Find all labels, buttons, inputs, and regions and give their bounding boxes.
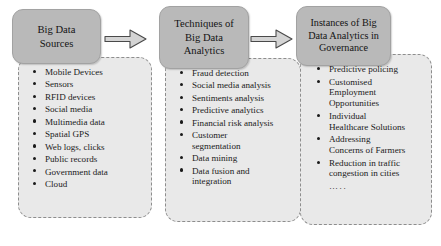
list-item-label: Individual: [329, 111, 425, 122]
list-item-label: Fraud detection: [192, 68, 294, 79]
header-box-instances-of-big-data-analytics-in-governance: Instances of Big Data Analytics in Gover…: [296, 6, 391, 66]
list-big-data-sources: Mobile DevicesSensorsRFID devicesSocial …: [31, 67, 145, 189]
list-item: CustomisedEmploymentOpportunities: [315, 77, 425, 109]
header-line: Instances of Big: [310, 17, 376, 30]
list-item-label: segmentation: [192, 141, 294, 152]
bullet-icon: [33, 82, 36, 85]
list-item-label: Predictive analytics: [192, 105, 294, 116]
list-item: Sensors: [31, 79, 145, 90]
arrow-techniques-to-instances-icon: [250, 28, 294, 54]
header-box-techniques-of-big-data-analytics: Techniques of Big Data Analytics: [159, 6, 249, 69]
bullet-icon: [33, 95, 36, 98]
bullet-icon: [180, 83, 183, 86]
list-item-label: Cloud: [45, 179, 145, 190]
list-item-label: Multimedia data: [45, 117, 145, 128]
arrow-sources-to-techniques-icon: [104, 28, 148, 54]
list-item-label: Addressing: [329, 134, 425, 145]
list-panel-instances-of-big-data-analytics-in-governance: Predictive policingCustomisedEmploymentO…: [300, 54, 432, 225]
list-item-label: Data fusion and: [192, 166, 294, 177]
list-item-label: Sentiments analysis: [192, 93, 294, 104]
list-item: Data fusion andintegration: [178, 166, 294, 187]
bullet-icon: [33, 169, 36, 172]
list-item-label: Public records: [45, 154, 145, 165]
bullet-icon: [180, 71, 183, 74]
list-item-label: RFID devices: [45, 92, 145, 103]
header-box-big-data-sources: Big Data Sources: [12, 9, 101, 64]
list-item-label: Customised: [329, 77, 425, 88]
bullet-icon: [180, 108, 183, 111]
list-item-label: Web logs, clicks: [45, 142, 145, 153]
list-trailing-ellipsis: …..: [315, 181, 425, 191]
list-techniques-of-big-data-analytics: Fraud detectionSocial media analysisSent…: [178, 68, 294, 187]
list-item: Fraud detection: [178, 68, 294, 79]
list-item: Social media analysis: [178, 80, 294, 91]
list-item-label: Concerns of Farmers: [329, 145, 425, 156]
list-item-label: Financial risk analysis: [192, 118, 294, 129]
list-item: AddressingConcerns of Farmers: [315, 134, 425, 155]
header-line: Techniques of: [174, 17, 234, 30]
list-item: Data mining: [178, 153, 294, 164]
header-line: Analytics: [184, 44, 225, 57]
bullet-icon: [317, 137, 320, 140]
list-panel-techniques-of-big-data-analytics: Fraud detectionSocial media analysisSent…: [165, 58, 301, 222]
list-item: RFID devices: [31, 92, 145, 103]
bullet-icon: [180, 96, 183, 99]
bullet-icon: [33, 119, 36, 122]
list-item: Cloud: [31, 179, 145, 190]
bullet-icon: [317, 67, 320, 70]
list-item: Customersegmentation: [178, 130, 294, 151]
list-item-label: Employment: [329, 87, 425, 98]
list-item-label: Opportunities: [329, 98, 425, 109]
bullet-icon: [33, 182, 36, 185]
bullet-icon: [317, 114, 320, 117]
list-item: Government data: [31, 167, 145, 178]
list-item-label: Government data: [45, 167, 145, 178]
bullet-icon: [317, 80, 320, 83]
list-item: Multimedia data: [31, 117, 145, 128]
list-item-label: Spatial GPS: [45, 129, 145, 140]
list-item-label: Social media: [45, 104, 145, 115]
bullet-icon: [33, 144, 36, 147]
list-instances-of-big-data-analytics-in-governance: Predictive policingCustomisedEmploymentO…: [315, 64, 425, 179]
list-item-label: Reduction in traffic: [329, 158, 425, 169]
header-line: Governance: [319, 42, 368, 55]
list-item: Web logs, clicks: [31, 142, 145, 153]
list-item-label: Customer: [192, 130, 294, 141]
list-item: Reduction in trafficcongestion in cities: [315, 158, 425, 179]
flow-diagram: Mobile DevicesSensorsRFID devicesSocial …: [0, 0, 441, 246]
list-item-label: Healthcare Solutions: [329, 122, 425, 133]
bullet-icon: [33, 70, 36, 73]
list-item: Mobile Devices: [31, 67, 145, 78]
list-panel-big-data-sources: Mobile DevicesSensorsRFID devicesSocial …: [18, 57, 152, 218]
bullet-icon: [33, 132, 36, 135]
list-item-label: Social media analysis: [192, 80, 294, 91]
list-item-label: congestion in cities: [329, 168, 425, 179]
list-item-label: Sensors: [45, 79, 145, 90]
list-item-label: Mobile Devices: [45, 67, 145, 78]
list-item-label: Data mining: [192, 153, 294, 164]
list-item: Social media: [31, 104, 145, 115]
header-line: Big Data: [38, 23, 76, 36]
list-item-label: integration: [192, 176, 294, 187]
list-item: Public records: [31, 154, 145, 165]
header-line: Sources: [40, 37, 74, 50]
header-line: Data Analytics in: [308, 30, 379, 43]
list-item: IndividualHealthcare Solutions: [315, 111, 425, 132]
bullet-icon: [180, 156, 183, 159]
header-line: Big Data: [185, 31, 223, 44]
bullet-icon: [180, 168, 183, 171]
bullet-icon: [33, 157, 36, 160]
bullet-icon: [33, 107, 36, 110]
list-item: Financial risk analysis: [178, 118, 294, 129]
bullet-icon: [317, 161, 320, 164]
list-item: Spatial GPS: [31, 129, 145, 140]
bullet-icon: [180, 120, 183, 123]
list-item: Predictive analytics: [178, 105, 294, 116]
list-item: Sentiments analysis: [178, 93, 294, 104]
bullet-icon: [180, 133, 183, 136]
